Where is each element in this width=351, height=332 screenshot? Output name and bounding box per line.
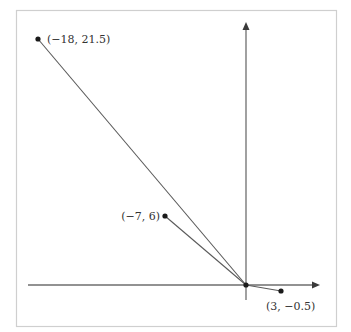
y-axis-arrow-icon (243, 22, 250, 30)
segment-to-p1 (38, 39, 246, 285)
segment-to-p2 (165, 216, 246, 285)
label-p1: (−18, 21.5) (47, 33, 110, 46)
point-p1 (35, 36, 40, 41)
label-p3: (3, −0.5) (266, 300, 315, 313)
segment-to-p3 (246, 285, 281, 291)
figure-frame (17, 11, 337, 327)
origin-point (243, 282, 248, 287)
point-p3 (278, 288, 283, 293)
vector-diagram: (−18, 21.5) (−7, 6) (3, −0.5) (0, 0, 351, 332)
point-p2 (162, 213, 167, 218)
label-p2: (−7, 6) (121, 210, 160, 223)
x-axis-arrow-icon (312, 282, 320, 289)
